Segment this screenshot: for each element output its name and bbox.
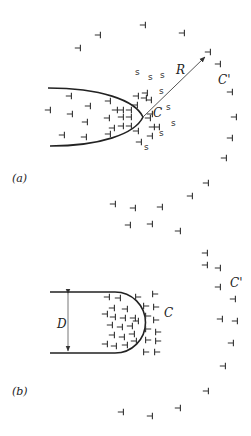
dislocation-icon xyxy=(127,323,133,329)
dislocation-icon xyxy=(130,205,136,211)
dislocation-icon xyxy=(118,123,124,129)
dislocation-icon xyxy=(146,313,152,319)
dislocation-icon xyxy=(215,284,221,290)
dislocation-icon xyxy=(203,180,209,186)
dislocation-icon xyxy=(125,222,131,228)
dislocation-icon xyxy=(120,315,126,321)
dislocation-icon xyxy=(232,318,238,324)
dislocation-icon xyxy=(102,341,108,347)
radius-label: R xyxy=(175,63,185,77)
dislocation-icon xyxy=(118,107,124,113)
dislocation-icon xyxy=(110,201,116,207)
dislocation-icon xyxy=(45,107,51,113)
panel-b: D C C' (b) xyxy=(12,250,242,419)
dislocation-icon xyxy=(126,123,132,129)
solute-atom: s xyxy=(160,70,165,80)
dislocation-icon xyxy=(147,221,153,227)
solute-atom: s xyxy=(159,86,164,96)
solute-atom: s xyxy=(148,72,153,82)
panel-a-label: (a) xyxy=(12,172,27,185)
dislocation-icon xyxy=(110,314,116,320)
dislocation-icon xyxy=(215,265,221,271)
dislocation-icon xyxy=(112,107,118,113)
outer-boundary-label: C' xyxy=(218,73,230,87)
dislocation-icon xyxy=(227,135,233,141)
dislocation-icon xyxy=(220,363,226,369)
dislocation-icon xyxy=(149,124,155,130)
panel-a: R C C' (a) ssssssss xyxy=(12,22,236,234)
dislocation-icon xyxy=(179,30,185,36)
solute-atom: s xyxy=(166,102,171,112)
dislocation-icon xyxy=(146,326,152,332)
dislocation-icon xyxy=(66,93,72,99)
panel-b-label: (b) xyxy=(12,385,28,398)
dislocation-pileup-diagram: R C C' (a) ssssssss D C C' (b) xyxy=(0,0,251,436)
dislocation-icon xyxy=(141,95,147,101)
dislocation-icon xyxy=(145,115,151,121)
dislocation-icon xyxy=(122,342,128,348)
dislocation-icon xyxy=(118,114,124,120)
dislocation-icon xyxy=(230,296,236,302)
tip-label: C xyxy=(164,306,173,320)
dislocation-icon xyxy=(81,134,87,140)
dislocation-icon xyxy=(117,324,123,330)
dislocation-icon xyxy=(175,228,181,234)
solute-atom: s xyxy=(144,142,149,152)
dislocation-icon xyxy=(202,250,208,256)
dislocation-icon xyxy=(154,317,160,323)
dislocation-icon xyxy=(157,204,163,210)
dislocation-icon xyxy=(136,294,142,300)
dislocation-icon xyxy=(228,340,234,346)
dislocation-icon xyxy=(131,338,137,344)
dislocation-icon xyxy=(109,305,115,311)
dislocation-icon xyxy=(95,32,101,38)
crack-tip-label: C xyxy=(153,106,162,120)
dislocation-icon xyxy=(119,334,125,340)
dislocation-icon xyxy=(129,331,135,337)
dislocation-icon xyxy=(147,133,153,139)
dislocation-icon xyxy=(130,315,136,321)
dislocations-outer-ring xyxy=(75,22,237,234)
solute-atom: s xyxy=(159,128,164,138)
outer-boundary-label-b: C' xyxy=(230,276,242,290)
dislocation-icon xyxy=(153,291,159,297)
dislocation-icon xyxy=(105,131,111,137)
dislocation-icon xyxy=(67,111,73,117)
dislocation-icon xyxy=(221,155,227,161)
dislocation-icon xyxy=(104,294,110,300)
dislocation-icon xyxy=(140,22,146,28)
dislocation-icon xyxy=(136,139,142,145)
dislocation-icon xyxy=(109,125,115,131)
dislocation-icon xyxy=(202,262,208,268)
dislocation-icon xyxy=(102,311,108,317)
dislocation-icon xyxy=(203,388,209,394)
dislocation-icon xyxy=(122,306,128,312)
diameter-label: D xyxy=(56,317,67,331)
dislocation-icon xyxy=(111,343,117,349)
dislocation-icon xyxy=(231,114,237,120)
dislocation-icon xyxy=(109,332,115,338)
dislocation-icon xyxy=(118,409,124,415)
dislocation-icon xyxy=(104,115,110,121)
dislocation-icon xyxy=(105,98,111,104)
dislocation-icon xyxy=(144,303,150,309)
dislocation-icon xyxy=(187,193,193,199)
dislocation-icon xyxy=(154,304,160,310)
dislocation-icon xyxy=(156,338,162,344)
dislocation-icon xyxy=(126,114,132,120)
dislocation-icon xyxy=(215,61,221,67)
dislocation-icon xyxy=(133,93,139,99)
dislocation-icon xyxy=(82,119,88,125)
dislocation-icon xyxy=(126,107,132,113)
dislocation-icon xyxy=(217,316,223,322)
dislocation-icon xyxy=(147,111,153,117)
dislocation-icon xyxy=(59,132,65,138)
dislocations-inside-slot xyxy=(102,294,139,349)
dislocation-icon xyxy=(85,103,91,109)
dislocations-outside-slot xyxy=(136,291,162,355)
dislocations-outer-ring-b xyxy=(118,250,238,419)
dislocation-icon xyxy=(133,128,139,134)
dislocation-icon xyxy=(205,49,211,55)
dislocation-icon xyxy=(147,413,153,419)
dislocation-icon xyxy=(156,329,162,335)
